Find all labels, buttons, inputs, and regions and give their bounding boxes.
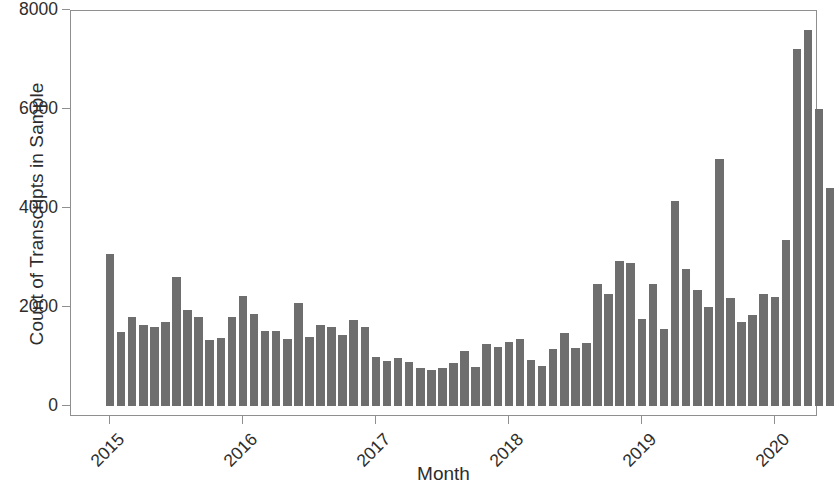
bar xyxy=(194,317,203,406)
bar xyxy=(239,296,248,406)
y-tick-mark xyxy=(62,405,70,406)
y-tick-mark xyxy=(62,207,70,208)
bar xyxy=(316,325,325,406)
bar xyxy=(793,49,802,406)
bar xyxy=(615,261,624,406)
y-axis-ticks: 02000400060008000 xyxy=(0,0,58,489)
bar xyxy=(538,366,547,406)
bar xyxy=(361,327,370,406)
bar xyxy=(349,320,358,406)
bar xyxy=(494,347,503,406)
x-tick-mark xyxy=(375,416,376,424)
bar xyxy=(172,277,181,406)
y-tick-label: 0 xyxy=(0,395,58,416)
y-tick-label: 6000 xyxy=(0,98,58,119)
bar xyxy=(715,159,724,406)
bar xyxy=(150,327,159,406)
bar xyxy=(549,349,558,406)
bar xyxy=(759,294,768,406)
bar xyxy=(139,325,148,406)
bar xyxy=(449,363,458,406)
bar xyxy=(438,368,447,406)
bar xyxy=(250,314,259,406)
bar xyxy=(294,303,303,406)
x-tick-mark xyxy=(242,416,243,424)
bar-chart-figure: Count of Transcripts in Sample 020004000… xyxy=(0,0,836,489)
bar xyxy=(305,337,314,406)
bar xyxy=(228,317,237,406)
bar xyxy=(383,361,392,406)
x-tick-mark xyxy=(774,416,775,424)
bar xyxy=(726,298,735,406)
bar xyxy=(106,254,115,406)
bar xyxy=(693,290,702,406)
bar xyxy=(338,335,347,406)
bar xyxy=(516,339,525,406)
bar xyxy=(771,297,780,406)
bar-series xyxy=(70,10,817,406)
bar xyxy=(571,348,580,406)
y-tick-mark xyxy=(62,306,70,307)
bar xyxy=(161,322,170,406)
bar xyxy=(460,351,469,406)
bar xyxy=(283,339,292,406)
bar xyxy=(372,357,381,407)
bar xyxy=(482,344,491,406)
bar xyxy=(505,342,514,406)
bar xyxy=(649,284,658,406)
bar xyxy=(604,294,613,406)
y-tick-mark xyxy=(62,108,70,109)
bar xyxy=(560,333,569,406)
bar xyxy=(682,269,691,406)
bar xyxy=(815,109,824,406)
bar xyxy=(638,319,647,406)
x-tick-mark xyxy=(641,416,642,424)
x-axis-label: Month xyxy=(70,463,817,485)
bar xyxy=(183,310,192,406)
bar xyxy=(327,327,336,406)
bar xyxy=(782,240,791,406)
x-tick-mark xyxy=(109,416,110,424)
bar xyxy=(427,370,436,406)
bar xyxy=(405,362,414,406)
bar xyxy=(593,284,602,406)
y-tick-mark xyxy=(62,9,70,10)
bar xyxy=(416,368,425,406)
y-tick-label: 2000 xyxy=(0,296,58,317)
bar xyxy=(660,329,669,406)
bar xyxy=(128,317,137,406)
y-tick-label: 8000 xyxy=(0,0,58,20)
x-tick-mark xyxy=(508,416,509,424)
bar xyxy=(737,322,746,406)
bar xyxy=(217,338,226,406)
bar xyxy=(272,331,281,406)
bar xyxy=(394,358,403,407)
bar xyxy=(804,30,813,406)
bar xyxy=(671,201,680,406)
bar xyxy=(527,360,536,406)
bar xyxy=(704,307,713,406)
bar xyxy=(626,263,635,406)
bar xyxy=(261,331,270,406)
bar xyxy=(117,332,126,406)
bar xyxy=(205,340,214,406)
bar xyxy=(748,315,757,406)
bar xyxy=(826,188,835,406)
bar xyxy=(471,367,480,406)
y-tick-label: 4000 xyxy=(0,197,58,218)
bar xyxy=(582,343,591,406)
